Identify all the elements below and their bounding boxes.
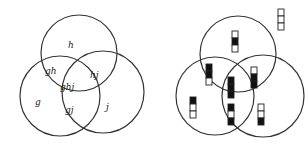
bar-cell [251, 74, 257, 81]
bar-cell [190, 111, 196, 118]
bar-cell [190, 97, 196, 104]
bar-cell [232, 38, 238, 45]
region-label-gj: gj [65, 105, 74, 115]
set-circle-j [62, 51, 144, 133]
venn-canvas: hghhjghjggjj [0, 0, 305, 151]
bar-cell [228, 111, 234, 118]
bar-cell [258, 118, 264, 125]
bar-cell [251, 67, 257, 74]
right-venn-diagram [176, 9, 304, 137]
region-bar-gh [206, 64, 212, 85]
bar-cell [228, 77, 234, 84]
region-label-gh: gh [45, 66, 57, 76]
bar-cell [228, 91, 234, 98]
region-label-g: g [35, 97, 41, 107]
bar-cell [228, 118, 234, 125]
set-circle-g [20, 56, 100, 136]
bar-cell [206, 78, 212, 85]
bar-cell [258, 104, 264, 111]
left-venn-diagram: hghhjghjggjj [20, 15, 144, 136]
legend-bar-icon [278, 9, 284, 30]
bar-cell [190, 104, 196, 111]
region-bar-j [258, 104, 264, 125]
bar-cell [232, 31, 238, 38]
region-bar-hj [251, 67, 257, 88]
region-bar-h [232, 31, 238, 52]
set-circle-h [41, 15, 117, 91]
bar-cell [278, 9, 284, 16]
bar-cell [278, 16, 284, 23]
bar-cell [206, 71, 212, 78]
bar-cell [228, 84, 234, 91]
bar-cell [228, 104, 234, 111]
set-circle-g [176, 57, 254, 135]
region-label-j: j [104, 102, 109, 112]
region-label-ghj: ghj [60, 82, 75, 92]
bar-cell [232, 45, 238, 52]
region-bar-g [190, 97, 196, 118]
region-label-h: h [68, 40, 74, 50]
region-bar-gj [228, 104, 234, 125]
bar-cell [251, 81, 257, 88]
bar-cell [278, 23, 284, 30]
bar-cell [206, 64, 212, 71]
region-bar-ghj [228, 77, 234, 98]
region-label-hj: hj [90, 70, 99, 80]
bar-cell [258, 111, 264, 118]
